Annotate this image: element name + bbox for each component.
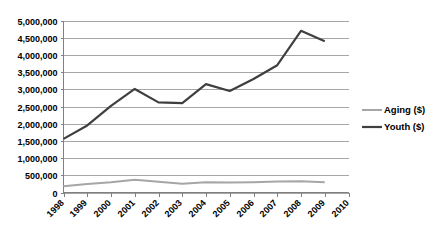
y-axis-tick-labels: 0500,0001,000,0001,500,0002,000,0002,500… <box>17 17 57 199</box>
y-axis-tick-label: 3,000,000 <box>17 85 57 95</box>
x-axis-tick-label: 2002 <box>140 198 161 219</box>
y-axis-tick-label: 2,500,000 <box>17 103 57 113</box>
y-axis-tick-label: 1,500,000 <box>17 137 57 147</box>
data-series <box>64 31 325 186</box>
x-axis-tick-label: 2007 <box>258 198 279 219</box>
line-chart: 0500,0001,000,0001,500,0002,000,0002,500… <box>0 0 444 230</box>
x-axis-tick-label: 2000 <box>92 198 113 219</box>
y-axis-tick-label: 0 <box>52 189 57 199</box>
x-axis-tick-label: 1998 <box>45 198 66 219</box>
y-axis-tick-label: 500,000 <box>25 171 58 181</box>
x-axis-tick-label: 2003 <box>163 198 184 219</box>
x-axis-tick-label: 2001 <box>116 198 137 219</box>
y-axis-tick-label: 4,500,000 <box>17 34 57 44</box>
x-axis-tick-label: 2009 <box>306 198 327 219</box>
y-axis-tick-label: 4,000,000 <box>17 51 57 61</box>
series-line-aging <box>64 180 325 187</box>
x-axis-tick-label: 2006 <box>235 198 256 219</box>
y-axis-tick-label: 2,000,000 <box>17 120 57 130</box>
legend-label: Youth ($) <box>384 121 424 132</box>
series-line-youth <box>64 31 325 139</box>
x-axis-tick-label: 2004 <box>187 198 208 219</box>
gridlines <box>64 22 349 194</box>
legend-label: Aging ($) <box>384 104 425 115</box>
x-axis-tick-label: 2008 <box>282 198 303 219</box>
y-axis-tick-label: 5,000,000 <box>17 17 57 27</box>
x-axis-tick-label: 2010 <box>330 198 351 219</box>
chart-legend: Aging ($)Youth ($) <box>362 104 425 132</box>
y-axis <box>61 21 64 194</box>
x-axis-tick-label: 2005 <box>211 198 232 219</box>
chart-canvas: 0500,0001,000,0001,500,0002,000,0002,500… <box>0 0 444 230</box>
y-axis-tick-label: 3,500,000 <box>17 68 57 78</box>
x-axis-tick-labels: 1998199920002001200220032004200520062007… <box>45 198 351 219</box>
x-axis-tick-label: 1999 <box>68 198 89 219</box>
y-axis-tick-label: 1,000,000 <box>17 154 57 164</box>
